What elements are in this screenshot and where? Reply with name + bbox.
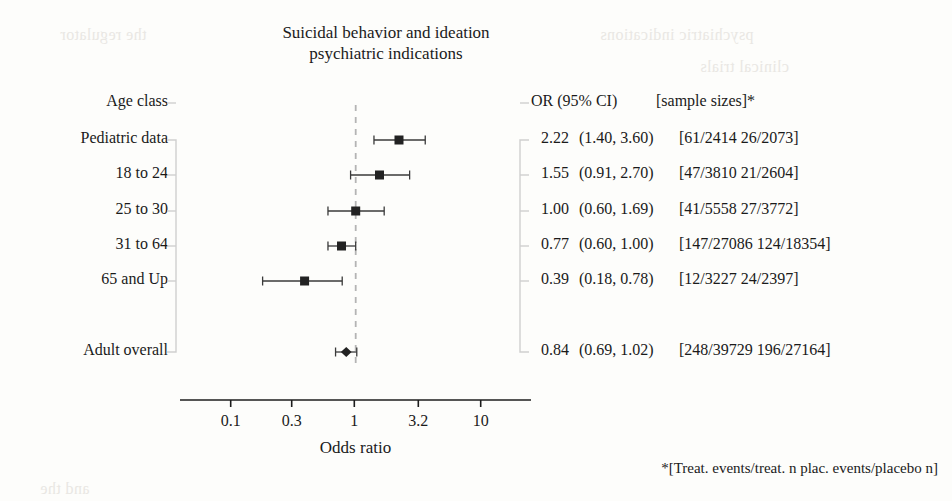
- point-estimate-marker-2: [375, 171, 384, 180]
- point-estimate-marker-1: [394, 136, 403, 145]
- point-estimate-marker-4: [337, 242, 346, 251]
- x-tick-label-4: 3.2: [388, 412, 448, 430]
- x-tick-label-3: 1: [324, 412, 384, 430]
- point-estimate-marker-5: [300, 277, 309, 286]
- x-tick-label-5: 10: [451, 412, 511, 430]
- forest-plot-figure: the regulatorpsychiatric indicationsclin…: [0, 0, 952, 501]
- x-tick-label-2: 0.3: [262, 412, 322, 430]
- footnote: *[Treat. events/treat. n plac. events/pl…: [661, 460, 938, 477]
- x-axis-title: Odds ratio: [180, 438, 531, 458]
- point-estimate-marker-3: [351, 207, 360, 216]
- x-tick-label-1: 0.1: [201, 412, 261, 430]
- summary-marker-6: [341, 347, 352, 357]
